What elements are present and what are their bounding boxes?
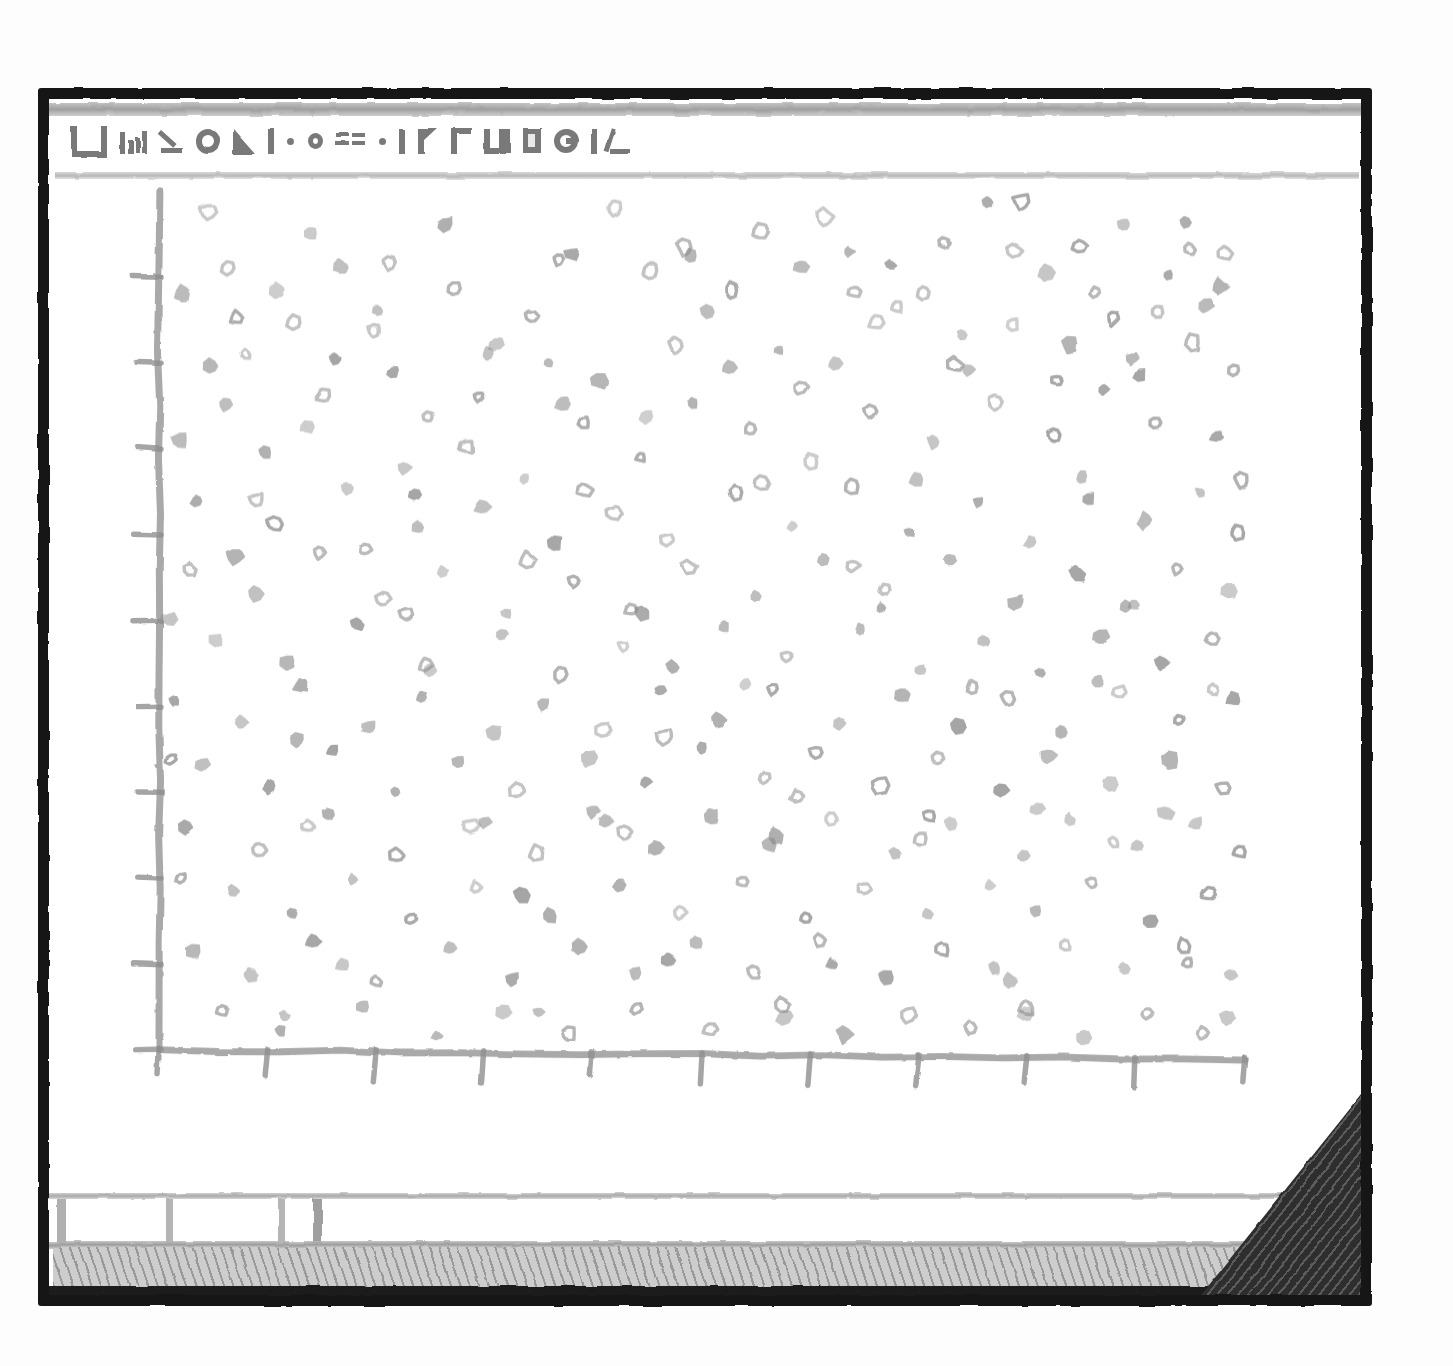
title-glyph-bars-icon [120, 129, 146, 154]
statusbar-bottom-rule [49, 1286, 1361, 1295]
title-glyph-dot-icon [287, 138, 294, 145]
statusbar-hatched-band [53, 1247, 1361, 1287]
title-glyph-k-icon [159, 128, 183, 155]
title-glyph-osmall-icon [307, 133, 323, 149]
title-glyph-triangle-icon [233, 129, 255, 154]
titlebar-bottom-rule [55, 172, 1359, 179]
resize-grip[interactable] [1201, 1095, 1361, 1295]
title-glyph-gamma-icon [451, 128, 471, 154]
title-glyph-flag-icon [418, 128, 438, 154]
statusbar-cell-3[interactable] [285, 1199, 322, 1243]
title-glyph-lj-icon [71, 126, 107, 157]
title-glyph-angle-icon [610, 128, 632, 154]
app-window: 0 0 [38, 88, 1372, 1306]
title-glyph-sha-icon [484, 129, 510, 154]
title-glyph-dot2-icon [379, 138, 386, 145]
statusbar-cell-1[interactable] [57, 1199, 173, 1243]
statusbar-cell-2[interactable] [173, 1199, 285, 1243]
title-glyph-bar2-icon [399, 129, 405, 154]
title-glyph-cmoon-icon [554, 129, 578, 153]
screenshot-root: 0 0 [0, 0, 1453, 1366]
plot-points [162, 195, 1247, 1046]
title-glyph-bar3-icon [591, 129, 597, 154]
window-titlebar[interactable] [49, 99, 1361, 181]
title-glyph-box-icon [523, 129, 541, 153]
statusbar-cells [57, 1199, 1357, 1243]
scatter-plot-canvas[interactable]: 0 0 [49, 181, 1361, 1177]
window-title-glyphs [71, 119, 632, 163]
title-glyph-dashes-icon [336, 131, 366, 151]
scatter-plot-svg [49, 181, 1361, 1177]
titlebar-top-rule [49, 103, 1361, 116]
window-statusbar [49, 1177, 1361, 1295]
title-glyph-o-icon [196, 129, 220, 153]
title-glyph-bar1-icon [268, 129, 274, 154]
